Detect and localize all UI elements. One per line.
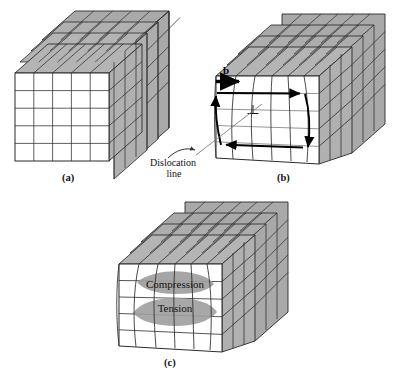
panel-a-front-face xyxy=(15,73,109,161)
compression-zone-label: Compression xyxy=(146,278,205,290)
panel-b: b Dislocation line (b) xyxy=(150,14,385,184)
panel-a-caption: (a) xyxy=(62,172,75,184)
dislocation-line-label-2: line xyxy=(167,168,183,179)
dislocation-figure-svg: (a) xyxy=(0,0,412,387)
panel-c: Compression Tension (c) xyxy=(117,202,288,369)
panel-c-caption: (c) xyxy=(164,357,176,369)
dislocation-line-label-1: Dislocation xyxy=(150,157,196,168)
panel-b-caption: (b) xyxy=(277,172,290,184)
tension-zone-label: Tension xyxy=(158,302,193,314)
burgers-vector-label: b xyxy=(223,64,229,76)
figure-root: (a) xyxy=(0,0,412,387)
